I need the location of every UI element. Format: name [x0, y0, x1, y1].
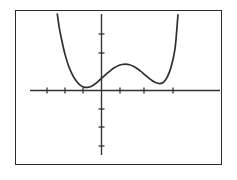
- graph-plot-area: [0, 0, 237, 180]
- calculator-screenshot: [0, 0, 237, 180]
- function-curve: [57, 14, 178, 87]
